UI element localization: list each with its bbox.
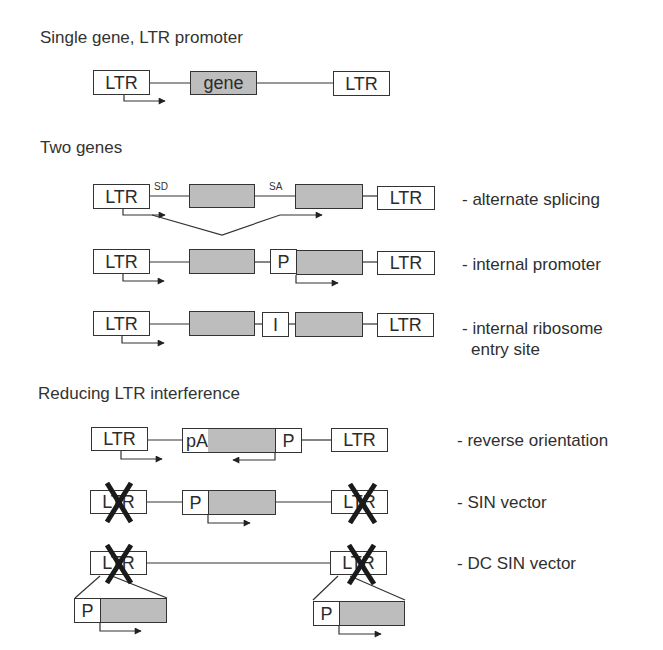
- cross-icon: [350, 484, 375, 523]
- cross-icon: [107, 483, 131, 522]
- cross-icon: [349, 545, 374, 584]
- deletion-crosses: [0, 0, 663, 650]
- cross-icon: [107, 545, 131, 583]
